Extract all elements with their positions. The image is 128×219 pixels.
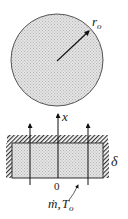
origin-label: 0 xyxy=(54,180,60,192)
side-view: x δ 0 ṁ,To xyxy=(6,109,118,213)
wall-right-hatch xyxy=(103,143,109,178)
top-view: ro xyxy=(11,14,103,106)
radius-label: ro xyxy=(92,14,102,31)
thickness-label: δ xyxy=(111,154,118,169)
inlet-pointer xyxy=(69,185,78,200)
wall-left-hatch xyxy=(6,143,12,178)
disk xyxy=(11,14,103,106)
diagram: ro x δ 0 ṁ,To xyxy=(0,0,128,219)
x-axis-label: x xyxy=(61,109,68,124)
